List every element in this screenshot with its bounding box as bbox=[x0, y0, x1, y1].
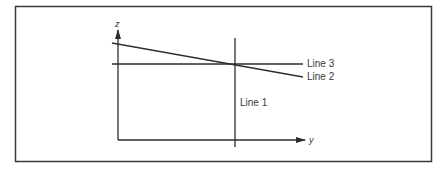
diagram-canvas: z y Line 3 Line 2 Line 1 bbox=[0, 0, 447, 173]
diagram-figure: z y Line 3 Line 2 Line 1 bbox=[0, 0, 447, 173]
y-axis-label: y bbox=[308, 135, 314, 145]
z-axis-label: z bbox=[114, 19, 120, 29]
line-2 bbox=[112, 43, 303, 77]
line-2-label: Line 2 bbox=[307, 71, 335, 82]
figure-frame bbox=[16, 7, 432, 162]
line-3-label: Line 3 bbox=[307, 58, 335, 69]
line-1-label: Line 1 bbox=[240, 97, 268, 108]
